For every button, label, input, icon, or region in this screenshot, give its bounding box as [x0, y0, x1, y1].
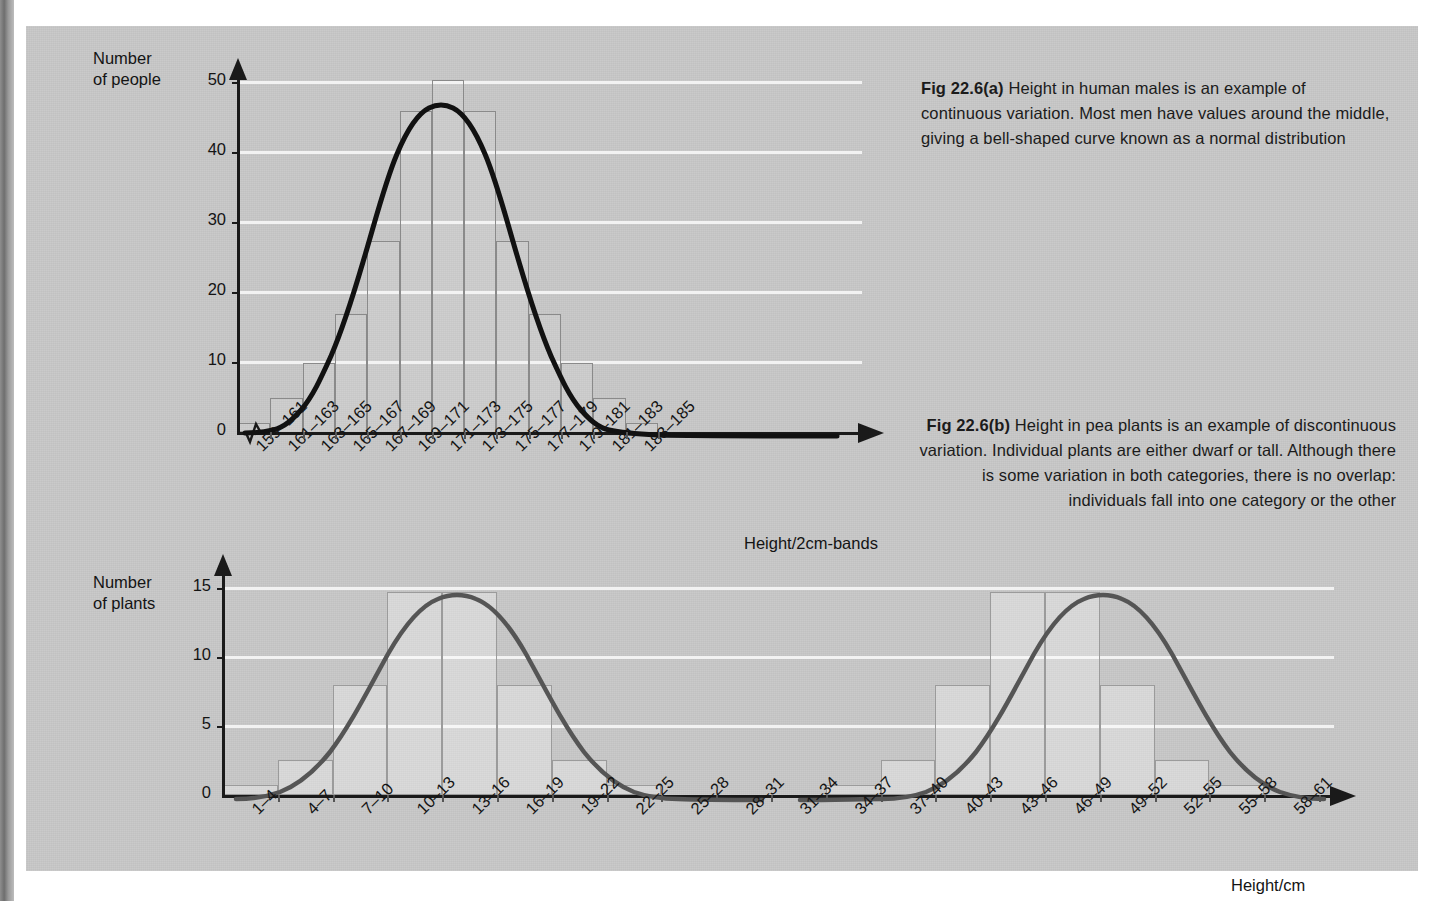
- x-tickmark: [270, 432, 272, 439]
- caption-fig-22-6-b: Fig 22.6(b) Height in pea plants is an e…: [906, 413, 1396, 513]
- x-tickmark: [1264, 795, 1266, 802]
- y-tick-label: 40: [184, 140, 226, 159]
- x-tickmark: [1100, 795, 1102, 802]
- x-tickmark: [278, 795, 280, 802]
- y-tick-label: 5: [169, 714, 211, 733]
- chart-a-normal-curve: [237, 66, 877, 436]
- x-tickmark: [497, 795, 499, 802]
- y-tick-label: 0: [169, 783, 211, 802]
- x-tickmark: [1155, 795, 1157, 802]
- x-tickmark: [303, 432, 305, 439]
- x-tickmark: [1209, 795, 1211, 802]
- x-tickmark: [496, 432, 498, 439]
- x-tickmark: [442, 795, 444, 802]
- x-tickmark: [881, 795, 883, 802]
- x-tickmark: [716, 795, 718, 802]
- y-tick-label: 15: [169, 576, 211, 595]
- x-tickmark: [826, 795, 828, 802]
- x-tickmark: [593, 432, 595, 439]
- y-tick-label: 10: [184, 350, 226, 369]
- x-tickmark: [529, 432, 531, 439]
- x-tickmark: [935, 795, 937, 802]
- figure-panel: Fig 22.6(a) Height in human males is an …: [26, 26, 1418, 871]
- x-tickmark: [771, 795, 773, 802]
- x-tickmark: [552, 795, 554, 802]
- x-tickmark: [335, 432, 337, 439]
- chart-a-human-male-height: Number of people 01020304050 159–161161–…: [26, 26, 906, 526]
- chart-b-xlabel: Height/cm: [1231, 876, 1305, 895]
- y-tick-label: 50: [184, 70, 226, 89]
- y-tick-label: 30: [184, 210, 226, 229]
- x-tickmark: [607, 795, 609, 802]
- x-tickmark: [1319, 795, 1321, 802]
- x-tickmark: [658, 432, 660, 439]
- y-tick-label: 10: [169, 645, 211, 664]
- x-tickmark: [1045, 795, 1047, 802]
- x-tickmark: [333, 795, 335, 802]
- y-tick-label: 20: [184, 280, 226, 299]
- chart-a-ylabel-line1: Number: [93, 48, 213, 69]
- x-tickmark: [661, 795, 663, 802]
- y-tick-label: 0: [184, 420, 226, 439]
- x-tickmark: [464, 432, 466, 439]
- caption-fig-22-6-a: Fig 22.6(a) Height in human males is an …: [921, 76, 1391, 151]
- chart-b-normal-curves: [222, 566, 1342, 801]
- caption-a-label: Fig 22.6(a): [921, 79, 1004, 97]
- page-spine-edge: [0, 0, 14, 901]
- caption-b-label: Fig 22.6(b): [927, 416, 1011, 434]
- x-tickmark: [367, 432, 369, 439]
- x-tickmark: [990, 795, 992, 802]
- x-tickmark: [561, 432, 563, 439]
- x-tickmark: [387, 795, 389, 802]
- chart-b-pea-plant-height: Number of plants 051015 1–44–77–1010–131…: [26, 546, 1416, 866]
- x-tickmark: [432, 432, 434, 439]
- x-tickmark: [626, 432, 628, 439]
- x-tickmark: [400, 432, 402, 439]
- page-margin: [14, 0, 26, 901]
- chart-b-ylabel-line2: of plants: [93, 593, 223, 614]
